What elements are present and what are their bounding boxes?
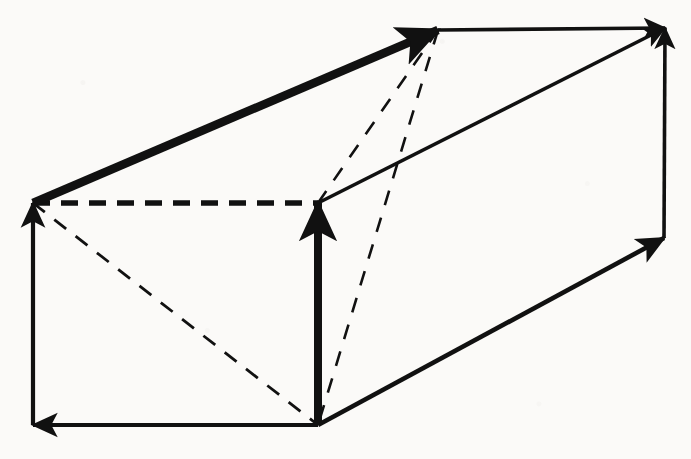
edge-front-bottom-right-to-front-top-right bbox=[664, 28, 665, 238]
figure-canvas bbox=[0, 0, 691, 459]
parallelepiped-diagram bbox=[0, 0, 691, 459]
edge-back-top-right-to-front-top-right bbox=[438, 28, 665, 30]
edge-front-bottom-left-to-front-bottom-right bbox=[318, 238, 664, 425]
hidden-edges-group bbox=[33, 30, 438, 425]
edge-back-top-left-to-back-top-right bbox=[33, 30, 438, 203]
edge-front-top-left-to-front-top-right bbox=[318, 28, 665, 203]
edge-back-top-left-to-front-bottom-left bbox=[33, 203, 318, 425]
edge-back-top-right-to-front-bottom-left bbox=[318, 30, 438, 425]
solid-edges-group bbox=[33, 28, 665, 425]
